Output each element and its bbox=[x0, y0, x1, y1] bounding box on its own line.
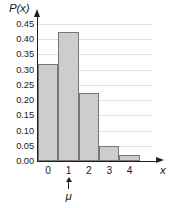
y-axis-tick-label: 0.05 bbox=[16, 141, 34, 151]
x-axis-tick-label: 4 bbox=[127, 165, 133, 176]
bar bbox=[38, 64, 58, 161]
mu-annotation-label: μ bbox=[65, 190, 71, 202]
x-axis-tick-label: 0 bbox=[45, 165, 51, 176]
bar bbox=[99, 146, 119, 161]
y-axis-tick-label: 0.00 bbox=[16, 156, 34, 166]
gridline bbox=[38, 39, 152, 40]
x-axis-arrowhead-icon bbox=[156, 157, 164, 163]
mu-arrow-shaft bbox=[68, 181, 69, 189]
gridline bbox=[38, 24, 152, 25]
x-axis-title: x bbox=[160, 164, 166, 176]
x-axis-tick-label: 1 bbox=[66, 165, 72, 176]
plot-area: 0.000.050.100.150.200.250.300.350.400.45 bbox=[38, 24, 152, 161]
y-axis-tick-label: 0.45 bbox=[16, 19, 34, 29]
bar bbox=[79, 93, 99, 161]
y-axis-arrowhead-icon bbox=[34, 9, 40, 17]
probability-distribution-chart: P(x) x 0.000.050.100.150.200.250.300.350… bbox=[0, 0, 176, 208]
y-axis-tick-label: 0.40 bbox=[16, 34, 34, 44]
y-axis-tick-label: 0.25 bbox=[16, 80, 34, 90]
y-axis-tick-label: 0.15 bbox=[16, 110, 34, 120]
gridline bbox=[38, 54, 152, 55]
y-axis-tick-label: 0.30 bbox=[16, 65, 34, 75]
bar bbox=[58, 32, 78, 161]
y-axis-tick-label: 0.10 bbox=[16, 126, 34, 136]
bar bbox=[119, 155, 139, 161]
x-axis-tick-label: 2 bbox=[86, 165, 92, 176]
x-axis-tick-label: 3 bbox=[106, 165, 112, 176]
y-axis-tick-label: 0.35 bbox=[16, 49, 34, 59]
y-axis-title: P(x) bbox=[9, 2, 29, 14]
y-axis-tick-label: 0.20 bbox=[16, 95, 34, 105]
